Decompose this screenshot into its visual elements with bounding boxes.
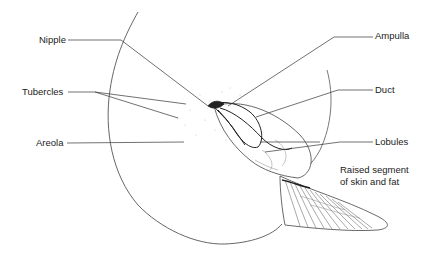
duct-leader [256, 90, 373, 117]
nipple-leader [68, 40, 208, 106]
areola-leader [67, 142, 184, 143]
leader-lines [67, 37, 373, 152]
tubercles-leader-2 [95, 92, 178, 118]
label-raised-segment-line1: Raised segment [340, 164, 409, 175]
ampulla-leader [228, 37, 373, 106]
label-areola: Areola [36, 137, 63, 148]
label-raised-segment-line2: of skin and fat [340, 176, 399, 187]
label-ampulla: Ampulla [375, 30, 409, 41]
label-duct: Duct [375, 84, 395, 95]
label-lobules: Lobules [375, 136, 408, 147]
label-nipple: Nipple [39, 34, 66, 45]
label-tubercles: Tubercles [22, 86, 63, 97]
breast-anatomy-diagram: Nipple Tubercles Areola Ampulla Duct Lob… [0, 0, 433, 253]
